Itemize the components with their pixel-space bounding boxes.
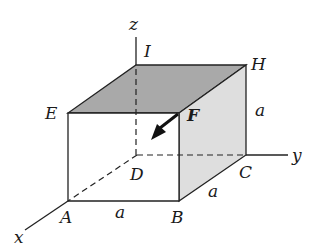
axis-label-z: z (128, 14, 139, 34)
vertex-label-F: F (186, 105, 201, 125)
cube-diagram: z y x I H E F D C A B a a a (0, 0, 322, 249)
vertex-label-H: H (250, 54, 267, 74)
axis-label-x: x (14, 227, 24, 247)
vertex-label-D: D (129, 164, 144, 184)
vertex-label-I: I (143, 41, 151, 61)
dimension-label-BC: a (208, 181, 218, 201)
vertex-label-E: E (44, 103, 58, 123)
axis-label-y: y (291, 145, 302, 165)
vertex-label-C: C (239, 162, 252, 182)
dimension-label-AB: a (115, 202, 125, 222)
dimension-label-CH: a (255, 100, 265, 120)
vertex-label-B: B (170, 207, 184, 227)
vertex-label-A: A (58, 207, 72, 227)
